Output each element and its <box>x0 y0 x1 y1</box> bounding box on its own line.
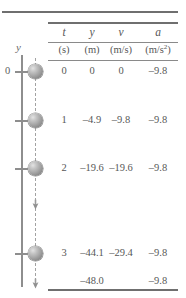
column-unit-t: (s) <box>50 45 78 56</box>
motion-diagram: y 0 <box>0 0 48 298</box>
table-cell-a-3: –9.8 <box>138 248 178 259</box>
table-cell-a-4: –9.8 <box>138 276 178 287</box>
table-cell-t-3: 3 <box>50 248 78 259</box>
y-axis-origin-label: 0 <box>5 65 10 76</box>
table-cell-t-0: 0 <box>50 66 78 77</box>
kinematics-data-table: t y v a (s) (m) (m/s) (m/s2) 0 0 0 –9.8 … <box>48 0 178 298</box>
column-unit-a: (m/s2) <box>138 45 178 56</box>
column-header-v: v <box>102 27 140 39</box>
table-cell-a-2: –9.8 <box>138 163 178 174</box>
column-header-a: a <box>138 27 178 39</box>
column-unit-a-close: ) <box>167 44 171 55</box>
table-cell-v-1: –9.8 <box>102 115 140 126</box>
falling-ball-icon-3 <box>28 246 43 261</box>
table-cell-a-0: –9.8 <box>138 66 178 77</box>
axis-tick-3 <box>15 253 28 255</box>
downward-arrow-icon-1 <box>32 199 39 210</box>
y-axis-label: y <box>16 41 21 53</box>
table-cell-t-2: 2 <box>50 163 78 174</box>
column-header-t: t <box>50 27 78 39</box>
column-unit-v: (m/s) <box>102 45 140 56</box>
column-unit-a-base: (m/s <box>145 44 164 55</box>
downward-arrow-icon-2 <box>32 278 39 289</box>
table-cell-v-3: –29.4 <box>102 248 140 259</box>
table-cell-a-1: –9.8 <box>138 115 178 126</box>
table-cell-v-0: 0 <box>102 66 140 77</box>
falling-ball-icon-1 <box>28 113 43 128</box>
axis-tick-1 <box>15 120 28 122</box>
falling-ball-icon-2 <box>28 161 43 176</box>
axis-tick-0 <box>15 71 28 73</box>
axis-tick-2 <box>15 168 28 170</box>
table-cell-v-2: –19.6 <box>102 163 140 174</box>
freefall-motion-figure: y 0 t y v a (s) (m) (m/s) (m/s2) <box>0 0 186 298</box>
falling-ball-icon-0 <box>28 64 43 79</box>
table-cell-y-4: –48.0 <box>76 276 108 287</box>
table-cell-t-1: 1 <box>50 115 78 126</box>
